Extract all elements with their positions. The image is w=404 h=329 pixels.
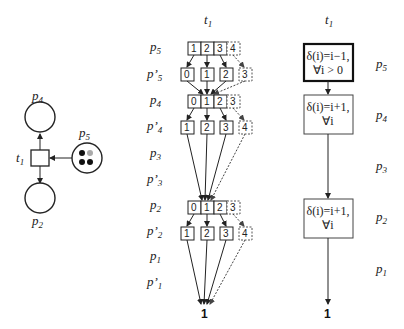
svg-text:3: 3 xyxy=(217,43,223,54)
place-p4 xyxy=(25,102,55,132)
svg-text:p’4: p’4 xyxy=(146,118,163,135)
svg-text:1: 1 xyxy=(204,69,210,80)
svg-text:2: 2 xyxy=(204,122,210,133)
svg-text:0: 0 xyxy=(184,69,190,80)
label-t1: t1 xyxy=(16,150,24,167)
svg-text:2: 2 xyxy=(217,202,223,213)
row-p2-prime: 1 2 3 4 xyxy=(181,227,252,240)
svg-text:∀i: ∀i xyxy=(322,114,334,128)
row-p4-prime: 1 2 3 4 xyxy=(181,121,252,134)
token xyxy=(79,159,85,165)
svg-text:2: 2 xyxy=(204,228,210,239)
unfolding-column: t1 p5 p’5 p4 p’4 p3 p’3 p2 p’2 p1 p’1 1 … xyxy=(146,12,252,321)
svg-text:p’1: p’1 xyxy=(146,274,162,291)
svg-text:4: 4 xyxy=(230,43,236,54)
place-p2 xyxy=(25,183,55,213)
right-row-labels: p5 p4 p3 p2 p1 xyxy=(375,56,388,278)
svg-text:0: 0 xyxy=(191,202,197,213)
symbolic-column: t1 δ(i)=i−1, ∀i > 0 δ(i)=i+1, ∀i δ(i)=i+… xyxy=(304,12,388,321)
row-p2: 0 1 2 3 xyxy=(188,201,240,214)
svg-text:p5: p5 xyxy=(149,39,162,56)
svg-text:1: 1 xyxy=(184,228,190,239)
svg-text:1: 1 xyxy=(204,96,210,107)
svg-text:p4: p4 xyxy=(149,92,162,109)
svg-text:4: 4 xyxy=(242,122,248,133)
petri-net: p4 t1 p2 p5 xyxy=(16,88,102,230)
svg-text:p3: p3 xyxy=(375,158,388,175)
right-title: t1 xyxy=(325,12,333,29)
diagram-canvas: p4 t1 p2 p5 t1 p5 p’5 p4 p’4 p3 p’3 p2 p… xyxy=(0,0,404,329)
svg-text:p1: p1 xyxy=(375,261,387,278)
svg-text:1: 1 xyxy=(204,202,210,213)
svg-text:3: 3 xyxy=(223,228,229,239)
svg-text:δ(i)=i−1,: δ(i)=i−1, xyxy=(307,49,350,63)
row-p5: 1 2 3 4 xyxy=(188,42,240,55)
row-p5-prime: 0 1 2 3 xyxy=(181,68,252,81)
svg-text:3: 3 xyxy=(230,96,236,107)
middle-final: 1 xyxy=(201,307,208,321)
token xyxy=(87,159,93,165)
svg-text:0: 0 xyxy=(191,96,197,107)
label-p5: p5 xyxy=(78,125,91,142)
right-final: 1 xyxy=(324,307,331,321)
svg-text:∀i: ∀i xyxy=(322,218,334,232)
token-grey xyxy=(87,150,93,156)
svg-text:1: 1 xyxy=(191,43,197,54)
svg-text:4: 4 xyxy=(242,228,248,239)
middle-title: t1 xyxy=(204,12,212,29)
svg-text:p’2: p’2 xyxy=(146,223,163,240)
svg-text:2: 2 xyxy=(217,96,223,107)
svg-text:p2: p2 xyxy=(375,209,388,226)
place-p5 xyxy=(72,143,102,173)
svg-text:δ(i)=i+1,: δ(i)=i+1, xyxy=(307,204,350,218)
svg-text:2: 2 xyxy=(204,43,210,54)
svg-text:2: 2 xyxy=(223,69,229,80)
svg-text:∀i > 0: ∀i > 0 xyxy=(313,63,343,77)
svg-text:p2: p2 xyxy=(149,197,162,214)
row-p4: 0 1 2 3 xyxy=(188,95,240,108)
svg-text:δ(i)=i+1,: δ(i)=i+1, xyxy=(307,100,350,114)
svg-text:p1: p1 xyxy=(149,248,161,265)
svg-text:p’5: p’5 xyxy=(146,66,163,83)
label-p2: p2 xyxy=(31,213,44,230)
middle-row-labels: p5 p’5 p4 p’4 p3 p’3 p2 p’2 p1 p’1 xyxy=(146,39,163,291)
svg-text:3: 3 xyxy=(223,122,229,133)
svg-text:3: 3 xyxy=(242,69,248,80)
svg-text:1: 1 xyxy=(184,122,190,133)
svg-text:p’3: p’3 xyxy=(146,171,163,188)
svg-text:p4: p4 xyxy=(375,107,388,124)
transition-t1 xyxy=(31,150,49,166)
svg-text:p5: p5 xyxy=(375,56,388,73)
token xyxy=(79,150,85,156)
svg-text:p3: p3 xyxy=(149,145,162,162)
svg-text:3: 3 xyxy=(230,202,236,213)
